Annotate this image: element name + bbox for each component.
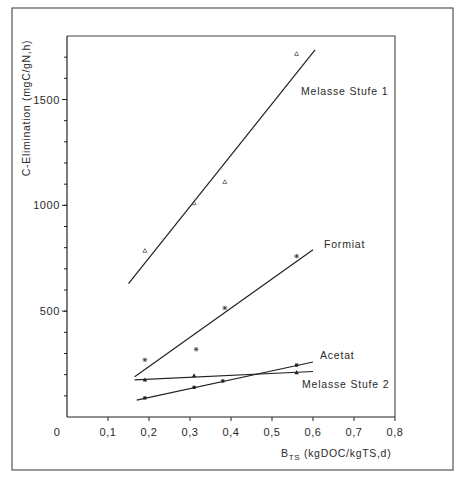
outer-frame (12, 8, 453, 470)
x-tick-label: 0,5 (263, 426, 280, 438)
marker-open-triangle (223, 180, 227, 184)
y-tick-label: 1000 (33, 199, 60, 211)
x-tick-label: 0,4 (222, 426, 239, 438)
marker-asterisk (194, 347, 199, 351)
fit-line-acetat (137, 362, 313, 400)
y-axis-title: C-Elimination (mgC/gN,h) (20, 40, 32, 176)
series-label-acetat: Acetat (320, 349, 355, 361)
marker-asterisk (143, 358, 148, 362)
data-markers (143, 52, 300, 400)
x-tick-label: 0,7 (345, 426, 362, 438)
x-tick-label: 0,8 (386, 426, 403, 438)
x-tick-label: 0,3 (181, 426, 198, 438)
marker-filled-circle (295, 364, 298, 367)
x-tick-label: 0,6 (304, 426, 321, 438)
marker-filled-triangle (192, 373, 196, 377)
fit-lines (129, 50, 316, 400)
y-tick-label: 1500 (33, 94, 60, 106)
x-tick-label: 0 (54, 426, 61, 438)
marker-asterisk (294, 254, 299, 258)
series-label-melasse-stufe-2: Melasse Stufe 2 (302, 378, 389, 390)
x-tick-label: 0,2 (140, 426, 157, 438)
chart-figure: 00,10,20,30,40,50,60,70,850010001500 C-E… (0, 0, 463, 483)
series-label-formiat: Formiat (324, 238, 365, 250)
y-tick-label: 500 (40, 305, 60, 317)
x-axis-title: BTS (kgDOC/kgTS,d) (281, 447, 391, 462)
fit-line-melasse-stufe-1 (129, 50, 316, 284)
marker-open-triangle (295, 52, 299, 56)
fit-line-melasse-stufe-2 (135, 371, 313, 379)
marker-asterisk (222, 306, 227, 310)
marker-filled-circle (143, 396, 146, 399)
x-tick-label: 0,1 (99, 426, 116, 438)
marker-open-triangle (143, 249, 147, 253)
series-label-melasse-stufe-1: Melasse Stufe 1 (301, 85, 388, 97)
marker-filled-circle (221, 379, 224, 382)
marker-filled-circle (193, 386, 196, 389)
fit-line-formiat (135, 250, 313, 377)
